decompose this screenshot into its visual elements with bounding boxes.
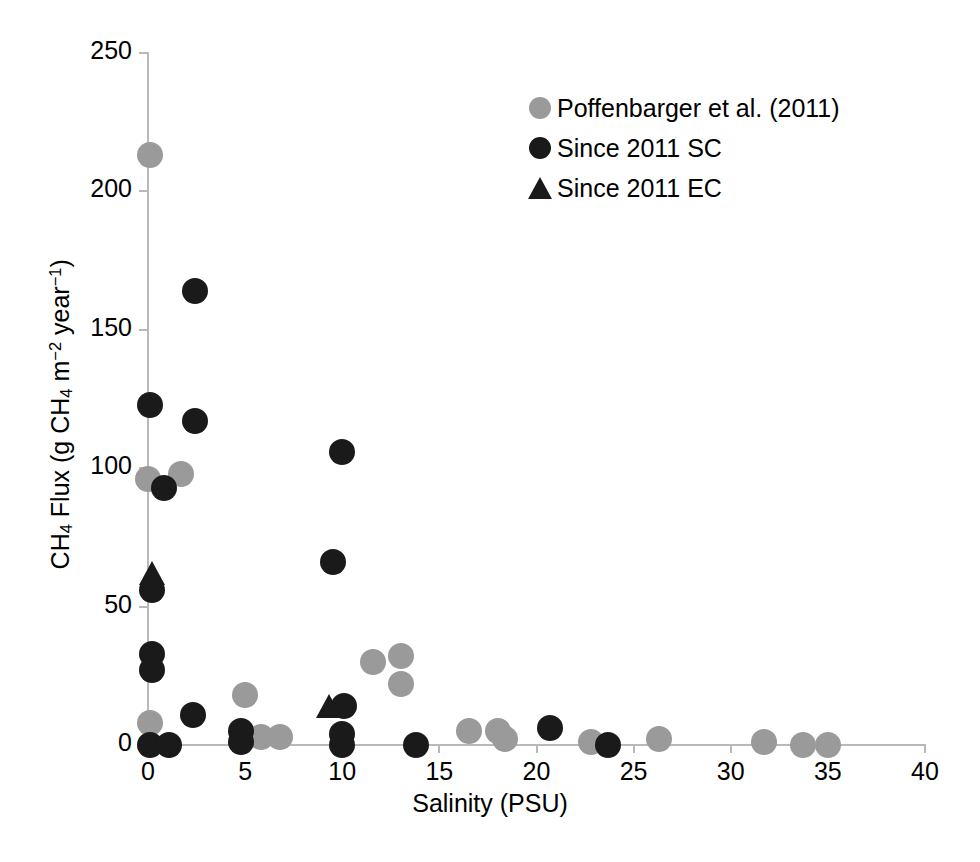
data-point: [388, 671, 414, 697]
x-tick-label-5: 5: [215, 757, 275, 786]
x-tick-label-40: 40: [895, 757, 955, 786]
x-tick-label-0: 0: [118, 757, 178, 786]
data-point: [316, 694, 342, 718]
data-point: [329, 732, 355, 758]
x-tick-30: [730, 744, 732, 753]
data-point: [180, 702, 206, 728]
data-point: [403, 732, 429, 758]
data-point: [492, 726, 518, 752]
legend-item-1: Since 2011 SC: [525, 128, 955, 168]
data-point: [456, 718, 482, 744]
x-tick-25: [633, 744, 635, 753]
y-tick-250: [139, 52, 148, 54]
x-tick-label-20: 20: [507, 757, 567, 786]
y-tick-200: [139, 190, 148, 192]
legend-item-2: Since 2011 EC: [525, 168, 955, 208]
legend-item-label: Since 2011 SC: [555, 134, 722, 163]
x-axis-title: Salinity (PSU): [0, 789, 980, 818]
data-point: [182, 278, 208, 304]
data-point: [228, 729, 254, 755]
x-tick-20: [536, 744, 538, 753]
data-point: [137, 392, 163, 418]
legend-item-0: Poffenbarger et al. (2011): [525, 88, 955, 128]
legend-circle-icon: [529, 97, 551, 119]
legend-triangle-icon: [528, 177, 552, 199]
x-tick-label-15: 15: [409, 757, 469, 786]
data-point: [320, 549, 346, 575]
data-point: [139, 657, 165, 683]
data-point: [151, 475, 177, 501]
data-point: [751, 729, 777, 755]
data-point: [790, 732, 816, 758]
data-point: [182, 408, 208, 434]
data-point: [595, 732, 621, 758]
data-point: [267, 724, 293, 750]
x-tick-40: [924, 744, 926, 753]
data-point: [156, 732, 182, 758]
data-point: [137, 142, 163, 168]
legend-item-label: Since 2011 EC: [555, 174, 722, 203]
legend-circle-icon: [529, 137, 551, 159]
data-point: [329, 439, 355, 465]
x-tick-label-35: 35: [798, 757, 858, 786]
x-tick-label-25: 25: [604, 757, 664, 786]
x-tick-label-10: 10: [312, 757, 372, 786]
y-tick-150: [139, 329, 148, 331]
y-axis-title: CH4 Flux (g CH4 m−2 year−1): [46, 64, 77, 764]
data-point: [139, 561, 165, 585]
data-point: [537, 715, 563, 741]
data-point: [360, 649, 386, 675]
data-point: [388, 643, 414, 669]
x-tick-15: [438, 744, 440, 753]
chart-legend: Poffenbarger et al. (2011)Since 2011 SCS…: [525, 88, 955, 208]
data-point: [815, 732, 841, 758]
data-point: [646, 726, 672, 752]
scatter-chart-figure: 0510152025303540 050100150200250 Salinit…: [0, 0, 980, 862]
y-tick-label-250: 250: [40, 36, 132, 65]
y-tick-50: [139, 606, 148, 608]
data-point: [232, 682, 258, 708]
x-tick-label-30: 30: [701, 757, 761, 786]
legend-item-label: Poffenbarger et al. (2011): [555, 94, 840, 123]
